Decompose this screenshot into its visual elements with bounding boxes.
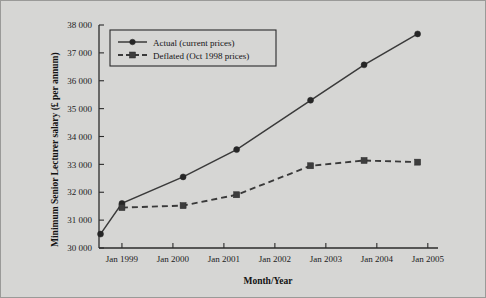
legend-label-actual: Actual (current prices) bbox=[153, 38, 234, 48]
x-tick-label: Jan 1999 bbox=[106, 254, 139, 264]
y-tick-label: 35 000 bbox=[67, 104, 92, 114]
x-tick-label: Jan 2005 bbox=[412, 254, 445, 264]
plot-area: 38 00037 00036 00035 00034 00033 00032 0… bbox=[1, 1, 486, 298]
chart-figure: 38 00037 00036 00035 00034 00033 00032 0… bbox=[0, 0, 486, 298]
data-point bbox=[234, 147, 240, 153]
y-tick-label: 31 000 bbox=[67, 215, 92, 225]
legend-marker-deflated bbox=[130, 52, 136, 58]
data-point bbox=[361, 157, 367, 163]
x-axis-title: Month/Year bbox=[243, 276, 293, 286]
y-tick-label: 37 000 bbox=[67, 48, 92, 58]
data-point bbox=[180, 174, 186, 180]
y-tick-label: 38 000 bbox=[67, 20, 92, 30]
y-axis-ticks bbox=[99, 25, 104, 248]
x-tick-label: Jan 2004 bbox=[361, 254, 394, 264]
data-point bbox=[308, 97, 314, 103]
data-point bbox=[415, 31, 421, 37]
x-tick-label: Jan 2000 bbox=[157, 254, 190, 264]
y-tick-label: 33 000 bbox=[67, 160, 92, 170]
data-point bbox=[308, 163, 314, 169]
x-axis-ticks bbox=[122, 243, 428, 248]
chart-legend: Actual (current prices) Deflated (Oct 19… bbox=[110, 30, 276, 66]
data-point bbox=[415, 159, 421, 165]
data-point bbox=[119, 205, 125, 211]
chart-svg: 38 00037 00036 00035 00034 00033 00032 0… bbox=[1, 1, 486, 298]
x-tick-label: Jan 2001 bbox=[208, 254, 240, 264]
x-axis-tick-labels: Jan 1999Jan 2000Jan 2001Jan 2002Jan 2003… bbox=[106, 254, 445, 264]
legend-box bbox=[110, 30, 276, 66]
data-point bbox=[361, 62, 367, 68]
data-point bbox=[98, 231, 104, 237]
y-tick-label: 34 000 bbox=[67, 132, 92, 142]
y-tick-label: 32 000 bbox=[67, 187, 92, 197]
y-axis-tick-labels: 38 00037 00036 00035 00034 00033 00032 0… bbox=[67, 20, 92, 253]
data-point bbox=[180, 203, 186, 209]
legend-marker-actual bbox=[130, 39, 136, 45]
y-tick-label: 36 000 bbox=[67, 76, 92, 86]
y-tick-label: 30 000 bbox=[67, 243, 92, 253]
legend-label-deflated: Deflated (Oct 1998 prices) bbox=[153, 51, 249, 61]
x-tick-label: Jan 2002 bbox=[259, 254, 291, 264]
x-tick-label: Jan 2003 bbox=[310, 254, 343, 264]
y-axis-title: Minimum Senior Lecturer salary (£ per an… bbox=[50, 52, 61, 247]
data-point bbox=[234, 192, 240, 198]
